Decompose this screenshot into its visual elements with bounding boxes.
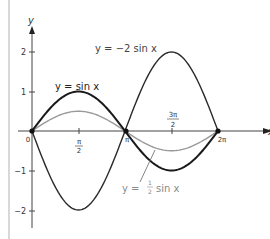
x-axis-label: x [267, 126, 270, 137]
y-axis-arrow-icon [29, 26, 35, 34]
x-tick-0: 0 [26, 136, 30, 144]
svg-text:2: 2 [148, 188, 152, 195]
x-tick-half-pi-den: 2 [77, 147, 81, 155]
x-tick-two-pi: 2π [218, 136, 227, 144]
y-tick-neg2: −2 [14, 207, 26, 216]
origin-point [29, 128, 34, 133]
sine-graph: y x 2 1 −1 −2 0 π 2 π 3π 2 2π y = sin x … [0, 0, 270, 239]
x-axis [18, 128, 270, 134]
y-tick-1: 1 [21, 88, 26, 97]
svg-text:1: 1 [148, 179, 152, 186]
pi-point [123, 128, 128, 133]
x-tick-three-half-pi-den: 2 [171, 121, 175, 129]
sin-curve-label: y = sin x [55, 81, 99, 92]
half-sin-leader-line [140, 150, 155, 182]
x-tick-half-pi-num: π [77, 138, 82, 146]
y-tick-neg1: −1 [14, 167, 26, 176]
neg2-sin-curve-label: y = −2 sin x [95, 43, 157, 54]
y-axis-label: y [27, 15, 35, 26]
y-tick-2: 2 [21, 48, 26, 57]
half-sin-curve-label: y = 1 2 sin x [122, 179, 180, 195]
two-pi-point [215, 128, 220, 133]
svg-text:sin x: sin x [156, 183, 180, 194]
x-tick-three-half-pi-num: 3π [169, 111, 178, 119]
svg-text:y =: y = [122, 183, 139, 194]
